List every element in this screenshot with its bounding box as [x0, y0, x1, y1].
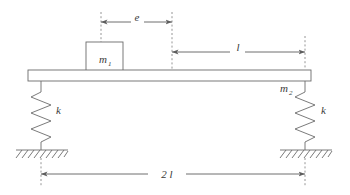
mechanical-diagram: e l m 1 m 2 k k	[0, 0, 350, 195]
spring-left: k	[31, 81, 62, 150]
spring-left-label: k	[56, 104, 62, 116]
ground-support-right	[280, 150, 332, 158]
spring-left-coil	[31, 81, 51, 150]
dimension-2l: 2 l	[41, 168, 305, 180]
ground-left-hatch	[22, 150, 28, 158]
ground-right-hatch	[304, 150, 310, 158]
ground-right-hatch	[292, 150, 298, 158]
dimension-l-label: l	[236, 41, 239, 53]
ground-left-hatch	[46, 150, 52, 158]
ground-right-hatch	[310, 150, 316, 158]
mass-block-label-subscript: 1	[108, 60, 112, 68]
dimension-l: l	[172, 41, 305, 53]
extension-lines	[41, 12, 305, 186]
dimension-e-label: e	[135, 11, 140, 23]
ground-left-hatch	[34, 150, 40, 158]
diagram-canvas: e l m 1 m 2 k k	[0, 0, 350, 195]
ground-right-hatch	[280, 150, 286, 158]
beam-mass-label-subscript: 2	[289, 89, 293, 97]
ground-right-hatch	[298, 150, 304, 158]
dimension-2l-label: 2 l	[161, 168, 172, 180]
mass-block-m1: m 1	[86, 42, 123, 71]
mass-block-label: m	[99, 53, 107, 65]
ground-right-hatch	[328, 151, 332, 157]
spring-right-coil	[295, 81, 315, 150]
beam-mass-label: m	[280, 82, 288, 94]
beam-outline	[28, 70, 311, 81]
ground-left-hatch	[40, 150, 46, 158]
ground-support-left	[16, 150, 68, 158]
ground-left-hatch	[16, 150, 22, 158]
spring-right-label: k	[321, 104, 327, 116]
ground-right-hatch	[286, 150, 292, 158]
ground-right-hatch	[316, 150, 322, 158]
rigid-beam: m 2	[28, 70, 311, 97]
ground-right-hatch	[322, 150, 328, 158]
spring-right: k	[295, 81, 327, 150]
ground-left-hatch	[52, 150, 58, 158]
ground-left-hatch	[58, 150, 64, 158]
dimension-e: e	[101, 11, 172, 23]
ground-left-hatch	[64, 151, 68, 157]
ground-left-hatch	[28, 150, 34, 158]
